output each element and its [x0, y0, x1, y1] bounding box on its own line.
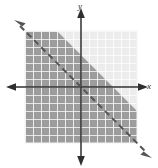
inequality-graph-figure: y x	[0, 0, 158, 168]
y-axis-arrow-down	[77, 156, 85, 166]
x-axis-arrow-left	[6, 83, 16, 91]
x-axis-label: x	[147, 82, 151, 91]
boundary-arrow-upper-left	[14, 20, 26, 26]
y-axis-label: y	[78, 2, 82, 11]
coordinate-plane-svg	[0, 0, 158, 168]
boundary-arrow-lower-right	[140, 152, 152, 158]
